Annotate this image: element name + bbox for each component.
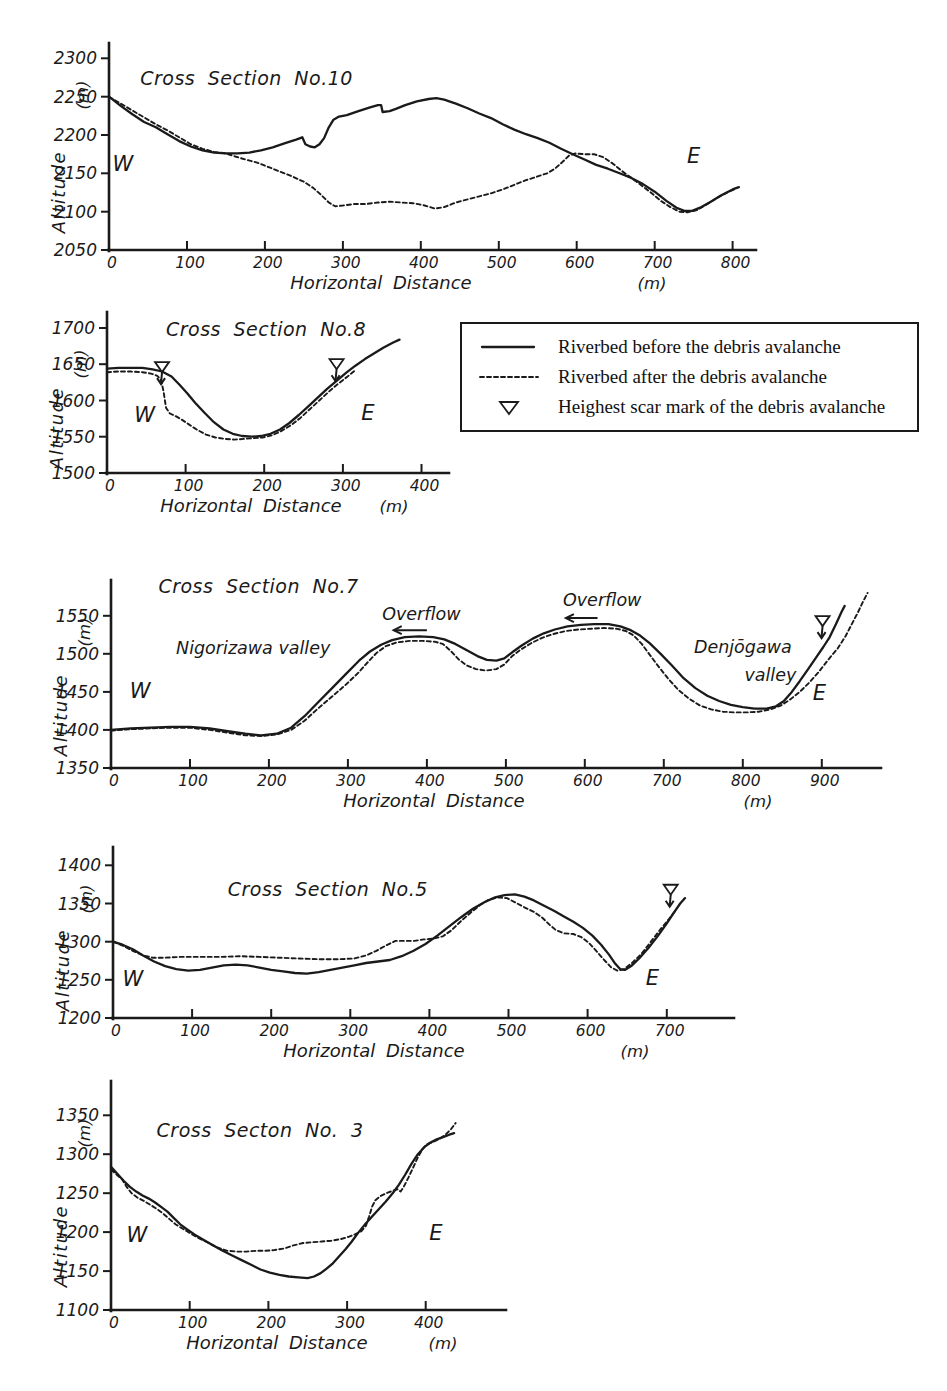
x-axis-title: Horizontal Distance (160, 495, 341, 516)
nigorizawa-valley-label: Nigorizawa valley (176, 638, 331, 658)
denjogawa-valley-label-line2: valley (744, 665, 797, 685)
x-tick-label: 100 (174, 477, 204, 495)
solid-line-icon (462, 338, 558, 356)
x-tick-label: 300 (339, 1022, 369, 1040)
series-solid-line (109, 97, 739, 211)
x-axis-title: Horizontal Distance (343, 790, 524, 811)
y-axis-unit: (m) (75, 1119, 94, 1148)
chart-cross-section-no7: 1350140014501500155001002003004005006007… (0, 545, 947, 817)
x-tick-label: 700 (643, 254, 673, 272)
x-tick-label: 600 (565, 254, 595, 272)
chart-title: Cross Section No.7 (158, 575, 358, 597)
x-axis-title: Horizontal Distance (186, 1332, 367, 1353)
chart-cross-section-no3: 1100115012001250130013500100200300400Alt… (0, 1068, 947, 1391)
west-label: W (122, 967, 144, 991)
x-tick-label: 400 (415, 772, 445, 790)
x-axis-unit: (m) (744, 792, 773, 811)
chart-cross-section-no5: 1200125013001350140001002003004005006007… (0, 825, 947, 1068)
east-label: E (646, 966, 660, 990)
chart-cross-section-no10: 2050210021502200225023000100200300400500… (0, 0, 947, 292)
x-tick-label: 0 (107, 254, 117, 272)
y-axis-unit: (m) (75, 618, 94, 647)
x-tick-label: 100 (175, 254, 205, 272)
y-tick-label: 1700 (52, 318, 95, 338)
legend: Riverbed before the debris avalancheRive… (460, 322, 919, 432)
west-label: W (113, 152, 135, 176)
east-label: E (361, 401, 375, 425)
y-tick-label: 2200 (54, 125, 97, 145)
series-solid-line (111, 606, 845, 735)
x-tick-label: 0 (109, 772, 119, 790)
y-axis-title: Altitude (52, 929, 73, 1012)
x-tick-label: 400 (409, 254, 439, 272)
x-axis-unit: (m) (429, 1334, 458, 1353)
y-tick-label: 2300 (54, 48, 97, 68)
x-tick-label: 300 (331, 254, 361, 272)
legend-label: Riverbed before the debris avalanche (558, 336, 841, 358)
x-tick-label: 200 (252, 477, 282, 495)
chart-title: Cross Section No.8 (166, 318, 366, 340)
x-tick-label: 800 (731, 772, 761, 790)
west-label: W (130, 679, 152, 703)
east-label: E (813, 681, 827, 705)
x-tick-label: 700 (652, 772, 682, 790)
x-tick-label: 800 (721, 254, 751, 272)
x-tick-label: 500 (497, 1022, 527, 1040)
x-tick-label: 200 (259, 1022, 289, 1040)
series-dashed-line (111, 1123, 456, 1252)
west-label: W (127, 1223, 149, 1247)
denjogawa-valley-label-line1: Denjōgawa (694, 637, 792, 657)
dashed-line-icon (462, 368, 558, 386)
y-axis-unit: (m) (73, 81, 92, 110)
figure-canvas: 2050210021502200225023000100200300400500… (0, 0, 947, 1391)
x-tick-label: 300 (335, 1314, 365, 1332)
x-tick-label: 200 (257, 772, 287, 790)
x-tick-label: 600 (576, 1022, 606, 1040)
y-axis-title: Altitude (50, 674, 71, 757)
x-tick-label: 300 (331, 477, 361, 495)
legend-item: Riverbed before the debris avalanche (462, 336, 917, 358)
x-tick-label: 700 (655, 1022, 685, 1040)
x-axis-unit: (m) (621, 1042, 650, 1061)
legend-item: Riverbed after the debris avalanche (462, 366, 917, 388)
x-tick-label: 0 (111, 1022, 121, 1040)
x-axis-unit: (m) (380, 497, 409, 516)
legend-label: Riverbed after the debris avalanche (558, 366, 827, 388)
overflow-label-2: Overflow (563, 590, 642, 610)
scar-mark-icon (664, 885, 678, 907)
series-dashed-line (109, 97, 737, 213)
x-tick-label: 500 (494, 772, 524, 790)
y-tick-label: 1350 (56, 758, 99, 778)
x-tick-label: 100 (180, 1022, 210, 1040)
series-solid-line (113, 894, 685, 973)
x-tick-label: 100 (178, 772, 208, 790)
chart-title: Cross Section No.5 (228, 878, 428, 900)
y-tick-label: 1400 (58, 855, 101, 875)
x-tick-label: 400 (410, 477, 440, 495)
y-tick-label: 1100 (56, 1300, 99, 1320)
x-tick-label: 200 (253, 254, 283, 272)
y-axis-title: Altitude (46, 387, 67, 470)
legend-item: Heighest scar mark of the debris avalanc… (462, 396, 917, 418)
y-axis-title: Altitude (48, 151, 69, 234)
overflow-arrow-icon (566, 614, 598, 622)
overflow-label-1: Overflow (382, 604, 461, 624)
x-tick-label: 100 (178, 1314, 208, 1332)
y-tick-label: 2050 (54, 240, 97, 260)
x-tick-label: 400 (418, 1022, 448, 1040)
legend-label: Heighest scar mark of the debris avalanc… (558, 396, 885, 418)
x-axis-title: Horizontal Distance (283, 1040, 464, 1061)
x-tick-label: 0 (109, 1314, 119, 1332)
x-tick-label: 600 (573, 772, 603, 790)
x-tick-label: 400 (414, 1314, 444, 1332)
west-label: W (134, 403, 156, 427)
scar-mark-triangle-icon (462, 398, 558, 416)
y-axis-unit: (m) (77, 885, 96, 914)
scar-mark-icon (816, 616, 830, 638)
chart-title: Cross Section No.10 (140, 67, 353, 89)
x-tick-label: 200 (257, 1314, 287, 1332)
y-axis-title: Altitude (50, 1205, 71, 1288)
series-solid-line (111, 1133, 454, 1278)
east-label: E (429, 1221, 443, 1245)
x-axis-unit: (m) (638, 274, 667, 293)
